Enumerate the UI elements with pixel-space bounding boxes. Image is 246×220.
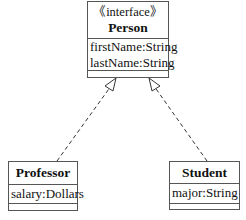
class-professor-header: Professor	[9, 162, 77, 185]
student-realization-arrowhead-icon	[149, 78, 160, 91]
professor-to-person-dashed-line	[57, 86, 111, 161]
attribute-salary: salary:Dollars	[11, 186, 77, 202]
class-student-attributes: major:String	[170, 184, 239, 204]
class-student-operations	[170, 204, 239, 209]
class-person-operations	[88, 71, 168, 77]
class-student-name: Student	[170, 165, 239, 181]
class-person-name: Person	[88, 20, 168, 36]
class-student[interactable]: Student major:String	[169, 161, 240, 210]
class-professor-operations	[9, 204, 77, 210]
class-person-header: 《interface》 Person	[88, 2, 168, 39]
class-professor[interactable]: Professor salary:Dollars	[8, 161, 78, 211]
attribute-lastname: lastName:String	[90, 55, 168, 71]
attribute-firstname: firstName:String	[90, 39, 168, 55]
class-student-header: Student	[170, 162, 239, 184]
student-to-person-dashed-line	[154, 86, 207, 161]
class-person-stereotype: 《interface》	[88, 4, 168, 20]
professor-realization-arrowhead-icon	[105, 78, 116, 91]
attribute-major: major:String	[172, 185, 239, 201]
class-person[interactable]: 《interface》 Person firstName:String last…	[87, 1, 169, 78]
class-professor-name: Professor	[9, 165, 77, 181]
class-person-attributes: firstName:String lastName:String	[88, 39, 168, 71]
class-professor-attributes: salary:Dollars	[9, 185, 77, 204]
